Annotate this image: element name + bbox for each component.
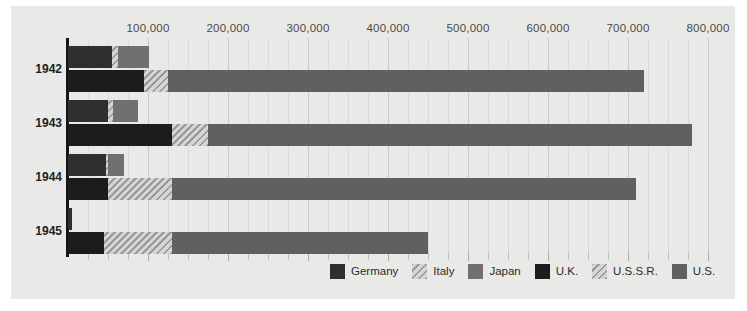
x-axis-tick (128, 253, 129, 260)
x-axis-tick (408, 253, 409, 260)
x-axis-tick (368, 253, 369, 260)
y-axis-label-1942: 1942 (35, 62, 62, 76)
x-axis-tick (328, 253, 329, 260)
x-axis-tick (608, 253, 609, 260)
legend-label: Germany (351, 265, 398, 277)
bar-segment-japan (113, 100, 139, 122)
bar-1943-allies (68, 124, 724, 146)
x-axis-tick (488, 253, 489, 260)
legend-swatch-japan-icon (468, 264, 483, 279)
bar-segment-japan (108, 154, 124, 176)
bar-1945-axis (68, 208, 724, 230)
y-axis-category-labels: 1942194319441945 (0, 0, 62, 311)
x-axis-tick (168, 253, 169, 260)
bar-segment-germany (68, 208, 72, 230)
x-axis-tick (508, 253, 509, 260)
bar-segment-uk (68, 232, 104, 254)
bar-1944-axis (68, 154, 724, 176)
legend-swatch-germany-icon (330, 264, 345, 279)
x-axis-tick (588, 253, 589, 260)
legend-swatch-italy-icon (412, 264, 427, 279)
bar-segment-germany (68, 100, 108, 122)
x-axis-tick (88, 253, 89, 260)
bar-1942-allies (68, 70, 724, 92)
x-axis-tick (188, 253, 189, 260)
x-axis-tick-label: 300,000 (287, 22, 330, 34)
x-axis-tick (528, 253, 529, 260)
legend-item-germany[interactable]: Germany (330, 264, 398, 279)
legend-swatch-us-icon (672, 264, 687, 279)
bar-segment-uk (68, 124, 172, 146)
bar-segment-uk (68, 70, 144, 92)
bar-segment-us (208, 124, 692, 146)
x-axis-tick (548, 253, 549, 261)
x-axis-tick-label: 800,000 (687, 22, 730, 34)
x-axis-tick-label: 600,000 (527, 22, 570, 34)
legend-label: Japan (489, 265, 520, 277)
bar-1942-axis (68, 46, 724, 68)
legend-item-us[interactable]: U.S. (672, 264, 715, 279)
x-axis-tick (708, 253, 709, 261)
x-axis-tick-label: 700,000 (607, 22, 650, 34)
x-axis-tick (108, 253, 109, 260)
legend-item-ussr[interactable]: U.S.S.R. (592, 264, 658, 279)
legend-label: U.S.S.R. (613, 265, 658, 277)
x-axis-tick (288, 253, 289, 260)
bar-segment-us (172, 232, 428, 254)
bar-segment-uk (68, 178, 108, 200)
bar-1943-axis (68, 100, 724, 122)
bar-segment-germany (68, 154, 106, 176)
x-axis-tick (388, 253, 389, 261)
x-axis-tick (208, 253, 209, 260)
legend-item-japan[interactable]: Japan (468, 264, 520, 279)
bar-segment-us (172, 178, 636, 200)
bar-segment-japan (118, 46, 148, 68)
x-axis-tick (148, 253, 149, 261)
chart-screenshot: 100,000200,000300,000400,000500,000600,0… (0, 0, 747, 311)
bar-1944-allies (68, 178, 724, 200)
y-axis-label-1943: 1943 (35, 116, 62, 130)
x-axis-tick (568, 253, 569, 260)
chart-legend: GermanyItalyJapanU.K.U.S.S.R.U.S. (330, 261, 729, 281)
x-axis-tick (648, 253, 649, 260)
bar-segment-us (168, 70, 644, 92)
x-axis-tick (268, 253, 269, 260)
legend-label: U.K. (556, 265, 578, 277)
x-axis-tick-label: 100,000 (127, 22, 170, 34)
bar-1945-allies (68, 232, 724, 254)
x-axis-tick (428, 253, 429, 260)
bar-segment-ussr (108, 178, 172, 200)
x-axis-tick (468, 253, 469, 261)
legend-swatch-uk-icon (535, 264, 550, 279)
bar-segment-germany (68, 46, 112, 68)
y-axis-label-1945: 1945 (35, 224, 62, 238)
legend-label: Italy (433, 265, 454, 277)
x-axis-tick-label: 500,000 (447, 22, 490, 34)
x-axis-tick (688, 253, 689, 260)
x-axis-tick (248, 253, 249, 260)
x-axis-tick (348, 253, 349, 260)
legend-item-uk[interactable]: U.K. (535, 264, 578, 279)
bar-segment-ussr (172, 124, 208, 146)
x-axis-tick (448, 253, 449, 260)
x-axis-tick (228, 253, 229, 261)
legend-label: U.S. (693, 265, 715, 277)
bar-segment-ussr (104, 232, 172, 254)
x-axis-tick (668, 253, 669, 260)
legend-swatch-ussr-icon (592, 264, 607, 279)
x-axis-tick (308, 253, 309, 261)
bar-segment-ussr (144, 70, 168, 92)
legend-item-italy[interactable]: Italy (412, 264, 454, 279)
x-axis-tick-label: 200,000 (207, 22, 250, 34)
x-axis-tick (628, 253, 629, 261)
x-axis-tick-label: 400,000 (367, 22, 410, 34)
y-axis-label-1944: 1944 (35, 170, 62, 184)
